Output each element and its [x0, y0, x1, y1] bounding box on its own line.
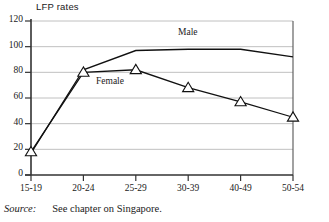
y-axis-tick-label: 120 [0, 14, 23, 24]
y-axis-tick-label: 100 [0, 40, 23, 50]
lfp-rates-figure: LFP rates Source:See chapter on Singapor… [0, 0, 329, 222]
x-axis-tick-label: 15-19 [9, 183, 53, 193]
x-axis-tick-label: 40-49 [219, 183, 263, 193]
y-axis-tick-label: 80 [0, 65, 23, 75]
x-axis-tick-label: 30-39 [166, 183, 210, 193]
source-label: Source: [4, 203, 36, 214]
data-point-marker [130, 64, 141, 73]
y-axis-tick-label: 40 [0, 117, 23, 127]
y-axis-tick-label: 20 [0, 142, 23, 152]
series-line-male [31, 49, 293, 153]
x-axis-tick-label: 50-54 [271, 183, 315, 193]
source-text: See chapter on Singapore. [52, 203, 162, 214]
y-axis-tick-label: 60 [0, 91, 23, 101]
x-axis-tick-label: 25-29 [114, 183, 158, 193]
source-row: Source:See chapter on Singapore. [4, 203, 162, 214]
series-line-female [31, 70, 293, 152]
x-axis-tick-label: 20-24 [61, 183, 105, 193]
series-label-male: Male [178, 27, 198, 37]
y-axis-tick-label: 0 [0, 168, 23, 178]
series-label-female: Female [96, 76, 124, 86]
